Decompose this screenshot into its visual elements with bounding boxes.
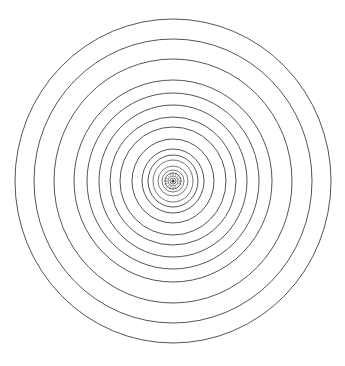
circles-svg [0, 0, 345, 366]
center-dot [172, 180, 175, 183]
concentric-circles-diagram [0, 0, 345, 366]
